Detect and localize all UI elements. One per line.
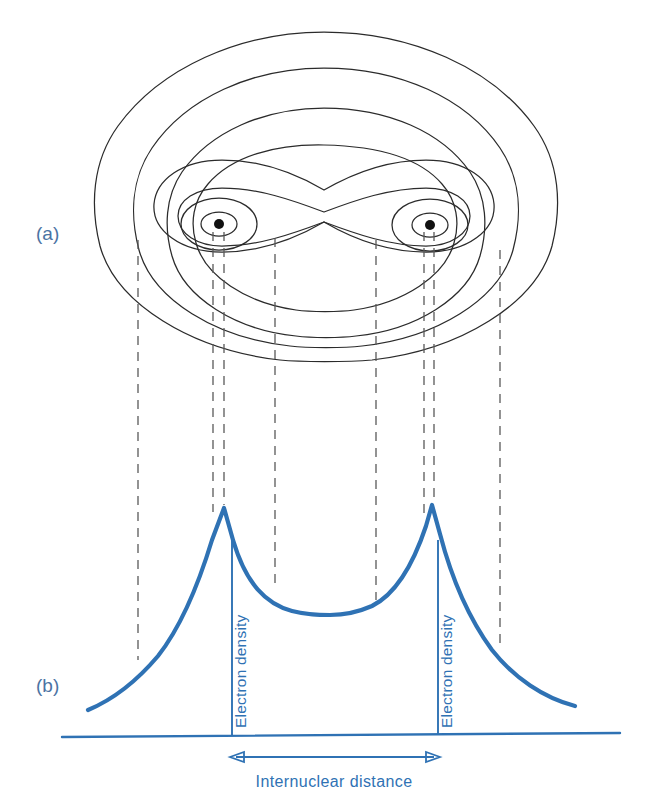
contour-level-4: [193, 145, 457, 312]
electron-density-label-right: Electron density: [438, 614, 455, 728]
electron-density-label-left: Electron density: [232, 614, 249, 728]
nucleus-dot-left: [214, 219, 224, 229]
figure-canvas: (a) (b) Electron density Electron densit…: [0, 0, 664, 805]
panel-label-a: (a): [36, 223, 59, 244]
nucleus-dot-right: [425, 220, 435, 230]
contour-map-group: [94, 32, 557, 362]
contour-level-2: [134, 68, 519, 348]
electron-density-curve: [88, 505, 575, 710]
internuclear-distance-label: Internuclear distance: [256, 773, 413, 790]
panel-label-b: (b): [36, 675, 59, 696]
density-profile-group: [62, 505, 620, 762]
electron-density-figure: (a) (b) Electron density Electron densit…: [0, 0, 664, 805]
internuclear-distance-arrow: [230, 752, 440, 762]
baseline-axis: [62, 733, 620, 737]
contour-level-5: [154, 160, 494, 252]
